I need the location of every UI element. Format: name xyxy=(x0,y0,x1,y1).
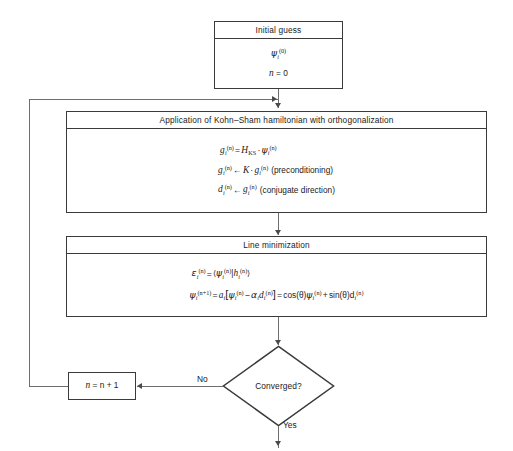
d-symbol: d xyxy=(259,290,264,300)
node-initial-guess-body: ψi(0) n = 0 xyxy=(215,39,342,88)
hamiltonian-equation-1: gi(n)=HKS·ψi(n) xyxy=(218,145,277,157)
ket-close-bracket: ⟩ xyxy=(247,269,250,279)
left-arrow-operator: ← xyxy=(232,185,243,195)
node-initial-guess-header: Initial guess xyxy=(215,22,342,39)
d-superscript: (n) xyxy=(356,289,363,296)
hamiltonian-equation-3: di(n)←gi(n)(conjugate direction) xyxy=(218,184,335,196)
node-decision-converged: Converged? xyxy=(222,345,335,427)
left-arrow-operator: ← xyxy=(232,165,243,175)
psi-symbol: ψ xyxy=(306,289,312,300)
epsilon-superscript: (n) xyxy=(198,267,205,274)
edge-label-no: No xyxy=(197,374,208,384)
feedback-loop-top-segment xyxy=(29,99,279,100)
sin-term: sin(θ) xyxy=(329,290,350,300)
feedback-loop-bottom-segment xyxy=(29,386,68,387)
cos-term: cos(θ) xyxy=(283,290,306,300)
node-initial-guess: Initial guess ψi(0) n = 0 xyxy=(214,21,343,89)
psi-superscript: (n+1) xyxy=(198,289,212,296)
psi-superscript: (n) xyxy=(314,289,321,296)
equals-sign: = xyxy=(211,290,218,300)
arrowhead-feedback-into-trunk xyxy=(272,96,277,102)
node-line-minimization-body: εi(n)=⟨ψi(n)|hi(n)⟩ ψi(n+1)=ai[ψi(n)−αid… xyxy=(67,254,486,316)
increment-equation: n = n + 1 xyxy=(86,381,119,391)
minus-sign: − xyxy=(244,290,251,300)
connector-no-branch xyxy=(137,386,223,387)
node-hamiltonian-header: Application of Kohn–Sham hamiltonian wit… xyxy=(67,112,486,129)
preconditioning-note: (preconditioning) xyxy=(268,165,333,175)
d-superscript: (n) xyxy=(225,183,232,190)
arrowhead-yes-exit xyxy=(275,441,281,446)
psi-symbol: ψ xyxy=(228,289,234,300)
decision-label: Converged? xyxy=(222,345,335,427)
linemin-equation-1: εi(n)=⟨ψi(n)|hi(n)⟩ xyxy=(190,268,251,280)
initial-guess-n-line: n = 0 xyxy=(269,69,288,79)
hamiltonian-equation-2: gi(n)←K·gi(n)(preconditioning) xyxy=(218,165,333,177)
conjugate-direction-note: (conjugate direction) xyxy=(257,185,335,195)
g-superscript: (n) xyxy=(225,164,232,171)
psi-superscript: (n) xyxy=(236,289,243,296)
increment-expression: = n + 1 xyxy=(90,380,118,390)
g-superscript: (n) xyxy=(227,144,234,151)
d-superscript: (n) xyxy=(266,289,273,296)
arrowhead-into-hamiltonian xyxy=(275,103,281,108)
epsilon-symbol: ε xyxy=(192,268,197,279)
d-symbol: d xyxy=(350,290,355,300)
feedback-loop-left-segment xyxy=(29,99,30,387)
arrowhead-into-linemin xyxy=(275,230,281,235)
node-hamiltonian-body: gi(n)=HKS·ψi(n) gi(n)←K·gi(n)(preconditi… xyxy=(67,129,486,212)
psi-symbol: ψ xyxy=(261,144,267,155)
equals-sign: = xyxy=(206,269,213,279)
psi-symbol: ψ xyxy=(190,289,196,300)
n-value: = 0 xyxy=(274,68,288,78)
g-symbol: g xyxy=(243,185,248,195)
plus-sign: + xyxy=(322,290,329,300)
flowchart-canvas: Initial guess ψi(0) n = 0 Application of… xyxy=(0,0,513,451)
node-hamiltonian: Application of Kohn–Sham hamiltonian wit… xyxy=(66,111,487,213)
node-line-minimization-header: Line minimization xyxy=(67,237,486,254)
node-line-minimization: Line minimization εi(n)=⟨ψi(n)|hi(n)⟩ ψi… xyxy=(66,236,487,317)
psi-superscript: (n) xyxy=(269,144,276,151)
arrowhead-into-increment xyxy=(137,383,142,389)
edge-label-yes: Yes xyxy=(283,420,297,430)
linemin-equation-2: ψi(n+1)=ai[ψi(n)−αidi(n)]=cos(θ)ψi(n)+si… xyxy=(190,289,364,302)
a-symbol: a xyxy=(219,290,224,300)
initial-guess-psi-line: ψi(0) xyxy=(271,48,286,60)
g-superscript: (n) xyxy=(250,183,257,190)
node-increment-counter: n = n + 1 xyxy=(68,372,136,400)
psi-superscript: (0) xyxy=(279,47,286,54)
